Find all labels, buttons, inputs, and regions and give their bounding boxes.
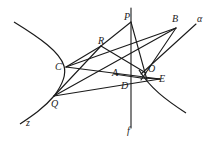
label-z: z — [25, 117, 30, 128]
label-P: P — [123, 11, 130, 22]
label-D: D — [120, 80, 129, 91]
label-C: C — [55, 61, 62, 72]
label-A: A — [111, 67, 119, 78]
label-E: E — [158, 73, 165, 84]
label-f: f — [127, 125, 131, 136]
segment-CB — [66, 28, 176, 67]
label-alpha: α — [197, 13, 203, 24]
label-B: B — [172, 13, 178, 24]
segment-PR — [101, 22, 131, 46]
label-Q: Q — [51, 98, 59, 109]
segment-PE — [131, 22, 147, 80]
label-R: R — [97, 35, 104, 46]
geometry-figure: P B α R C A O E D Q z f — [0, 0, 216, 141]
label-O: O — [148, 63, 155, 74]
